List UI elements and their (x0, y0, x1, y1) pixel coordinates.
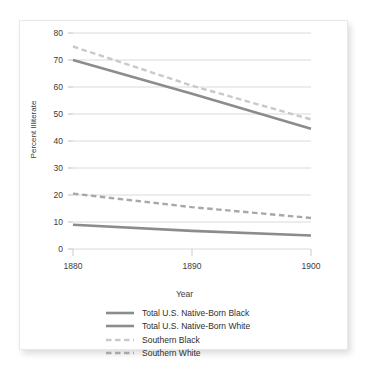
line-chart-svg (20, 21, 349, 277)
legend-swatch-icon (106, 309, 134, 317)
chart-legend: Total U.S. Native-Born BlackTotal U.S. N… (20, 306, 349, 360)
y-tick-label: 30 (39, 164, 63, 173)
legend-swatch-icon (106, 322, 134, 330)
legend-item: Southern White (20, 347, 349, 361)
plot-area: 01020304050607080 188018901900 (20, 21, 349, 277)
x-axis-title: Year (20, 289, 349, 299)
y-tick-label: 0 (39, 245, 63, 254)
series-line-0 (73, 60, 311, 129)
y-tick-label: 80 (39, 29, 63, 38)
y-tick-label: 10 (39, 218, 63, 227)
legend-label: Total U.S. Native-Born White (142, 322, 250, 331)
y-tick-label: 40 (39, 137, 63, 146)
y-tick-label: 20 (39, 191, 63, 200)
legend-label: Southern Black (142, 336, 200, 345)
legend-label: Southern White (142, 349, 201, 358)
y-tick-label: 60 (39, 83, 63, 92)
series-line-2 (73, 47, 311, 120)
x-tick-label: 1900 (291, 262, 331, 271)
x-tick-label: 1880 (53, 262, 93, 271)
legend-item: Total U.S. Native-Born White (20, 320, 349, 334)
y-axis-title: Percent Illiterate (29, 90, 38, 170)
legend-item: Total U.S. Native-Born Black (20, 306, 349, 320)
legend-item: Southern Black (20, 333, 349, 347)
series-line-1 (73, 225, 311, 236)
y-tick-label: 70 (39, 56, 63, 65)
figure-root: 01020304050607080 188018901900 Percent I… (0, 0, 374, 371)
legend-swatch-icon (106, 349, 134, 357)
legend-swatch-icon (106, 336, 134, 344)
y-tick-label: 50 (39, 110, 63, 119)
legend-label: Total U.S. Native-Born Black (142, 309, 249, 318)
series-line-3 (73, 194, 311, 218)
chart-card: 01020304050607080 188018901900 Percent I… (19, 20, 348, 350)
x-tick-label: 1890 (172, 262, 212, 271)
